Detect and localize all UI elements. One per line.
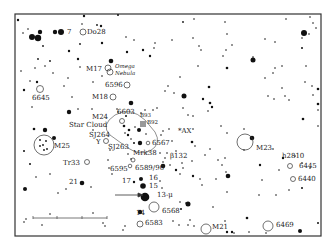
star — [63, 85, 65, 87]
star — [226, 191, 228, 193]
star — [173, 92, 175, 94]
label-13mu: 13-μ — [157, 191, 173, 199]
star — [109, 59, 114, 64]
star — [172, 220, 174, 222]
star — [264, 38, 266, 40]
star — [248, 231, 250, 233]
star — [251, 58, 256, 63]
label-6645: 6645 — [32, 94, 50, 102]
star — [162, 130, 164, 132]
star — [43, 128, 47, 132]
star — [122, 229, 124, 231]
star — [139, 177, 143, 181]
label-y: Y — [95, 138, 101, 146]
star — [193, 225, 195, 227]
star — [124, 132, 126, 134]
star — [274, 41, 276, 43]
star — [80, 181, 85, 186]
star — [22, 32, 24, 34]
star — [285, 18, 287, 20]
star — [34, 67, 36, 69]
star — [153, 47, 155, 49]
star — [133, 142, 135, 144]
star — [231, 44, 233, 46]
star — [301, 30, 307, 36]
star — [182, 94, 187, 99]
star — [288, 99, 290, 101]
star — [221, 164, 223, 166]
star — [204, 154, 206, 156]
label-7: 7 — [67, 28, 71, 36]
star — [65, 188, 67, 190]
star — [265, 232, 267, 234]
star — [101, 42, 103, 44]
star — [209, 148, 211, 150]
star — [53, 30, 57, 34]
star — [182, 167, 184, 169]
star — [126, 51, 128, 53]
star — [36, 81, 38, 83]
star — [91, 108, 93, 110]
star — [25, 218, 27, 220]
star — [192, 128, 194, 130]
label-m24: M24 — [92, 113, 109, 121]
star — [167, 85, 169, 87]
star — [164, 157, 166, 159]
star — [273, 98, 275, 100]
label-21: 21 — [69, 178, 78, 186]
star — [127, 134, 129, 136]
label-m21: M21 — [212, 223, 228, 231]
star — [123, 125, 126, 128]
star — [45, 140, 47, 142]
star — [198, 45, 200, 47]
star — [100, 25, 102, 27]
star — [49, 213, 51, 215]
star — [102, 222, 104, 224]
label-m17: M17 — [86, 65, 102, 73]
label-6595: 6595 — [110, 165, 128, 173]
star — [68, 50, 70, 52]
star — [217, 159, 219, 161]
star — [107, 159, 109, 161]
star — [192, 175, 194, 177]
star — [315, 27, 317, 29]
star — [211, 106, 213, 108]
label-17: 17 — [122, 177, 131, 185]
label-nebula: Nebula — [114, 70, 135, 76]
star — [20, 70, 22, 72]
star — [225, 49, 227, 51]
label-omega: Omega — [115, 63, 135, 70]
star — [31, 106, 33, 108]
star — [288, 189, 290, 191]
star — [226, 132, 228, 134]
star — [301, 187, 303, 189]
label-ax: *AX — [178, 127, 192, 135]
label-6567: 6567 — [152, 139, 170, 147]
star — [226, 33, 228, 35]
star — [312, 94, 314, 96]
star — [83, 15, 85, 17]
label-6440: 6440 — [298, 175, 316, 183]
star — [140, 183, 146, 189]
star — [92, 81, 94, 83]
star — [301, 37, 303, 39]
star — [35, 35, 41, 41]
label-b93: B93 — [140, 112, 152, 118]
label-16: 16 — [149, 174, 158, 182]
label-15: 15 — [149, 182, 158, 190]
star — [117, 14, 119, 16]
star — [181, 162, 183, 164]
label-m18: M18 — [92, 93, 108, 101]
star — [44, 65, 46, 67]
star — [182, 21, 184, 23]
star — [128, 129, 131, 132]
star — [179, 76, 181, 78]
star — [246, 217, 249, 220]
star — [191, 160, 193, 162]
star — [144, 109, 146, 111]
star — [171, 39, 173, 41]
star — [52, 72, 54, 74]
star — [43, 149, 45, 151]
star — [182, 107, 184, 109]
star — [207, 110, 209, 112]
